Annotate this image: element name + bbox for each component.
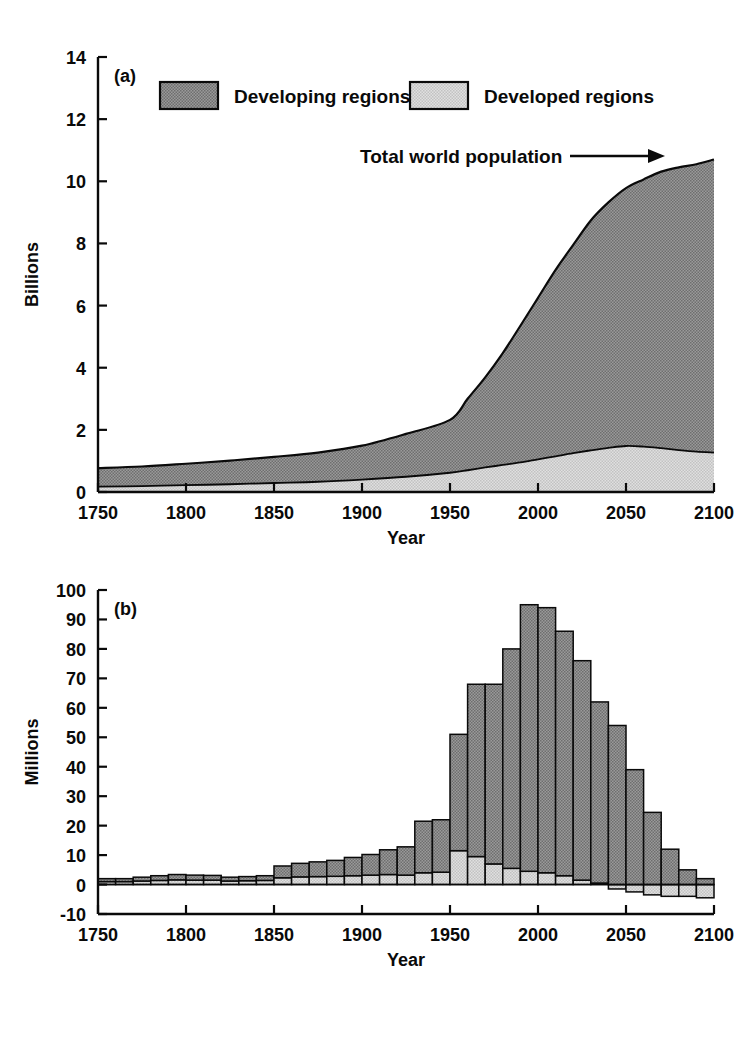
panel-b-label: 2000 <box>518 925 558 945</box>
panel-b-bar <box>380 875 398 885</box>
panel-a-label: Developing regions <box>234 86 410 107</box>
panel-b-bar <box>538 873 556 885</box>
panel-b-bar <box>520 871 538 884</box>
panel-b-label: 2100 <box>694 925 734 945</box>
panel-b-bar <box>485 684 503 864</box>
panel-b-label: 1750 <box>78 925 118 945</box>
panel-b-bar <box>608 725 626 884</box>
panel-b-bar <box>186 875 204 880</box>
panel-a-label: 2100 <box>694 503 734 523</box>
panel-b-bar <box>397 875 415 884</box>
panel-b-label: -10 <box>60 905 86 925</box>
panel-a-label: 8 <box>76 234 86 254</box>
panel-b-bar <box>292 877 310 885</box>
panel-b-bar <box>327 860 345 876</box>
panel-b-bar <box>696 885 714 898</box>
panel-b-label: 1800 <box>166 925 206 945</box>
panel-b-label: 1950 <box>430 925 470 945</box>
panel-b-bar <box>415 821 433 873</box>
panel-a-canvas: 0246810121417501800185019001950200020502… <box>0 0 754 545</box>
panel-b-label: 20 <box>66 817 86 837</box>
panel-b-bar <box>362 875 380 884</box>
figure-root: 0246810121417501800185019001950200020502… <box>0 0 754 1039</box>
panel-b-canvas: -100102030405060708090100175018001850190… <box>0 545 754 1039</box>
panel-b-bar <box>661 849 679 884</box>
panel-b-bar <box>239 877 257 881</box>
panel-b-bar <box>274 878 292 885</box>
panel-a-label: 4 <box>76 359 86 379</box>
panel-b-label: 100 <box>56 581 86 601</box>
panel-a-area-series <box>98 160 714 487</box>
panel-a-label: 1750 <box>78 503 118 523</box>
panel-b-bar <box>344 876 362 885</box>
panel-b-label: 60 <box>66 699 86 719</box>
panel-b-bar <box>397 847 415 875</box>
panel-a-label: Developed regions <box>484 86 654 107</box>
panel-a-label: (a) <box>114 66 136 86</box>
panel-b-bar <box>468 857 486 885</box>
panel-b-label: (b) <box>114 599 137 619</box>
panel-b-bar <box>432 872 450 884</box>
panel-b-label: 1900 <box>342 925 382 945</box>
panel-b-label: 0 <box>76 876 86 896</box>
panel-b-bar <box>644 812 662 884</box>
panel-b-label: 70 <box>66 669 86 689</box>
panel-b-bar <box>274 866 292 878</box>
panel-b-label: 80 <box>66 640 86 660</box>
panel-b-bar <box>221 877 239 881</box>
panel-b-label: 30 <box>66 787 86 807</box>
panel-b-bar <box>309 862 327 877</box>
panel-b-bar <box>503 649 521 868</box>
panel-a-label: Total world population <box>360 146 562 167</box>
panel-a-label: 1800 <box>166 503 206 523</box>
panel-b-bar <box>644 885 662 895</box>
panel-a-label: 2050 <box>606 503 646 523</box>
panel-a-label: 2000 <box>518 503 558 523</box>
panel-b-bar <box>679 870 697 885</box>
panel-b-label: 90 <box>66 610 86 630</box>
chart-panel-a: 0246810121417501800185019001950200020502… <box>0 0 754 545</box>
panel-b-label: 40 <box>66 758 86 778</box>
panel-b-bar <box>520 605 538 872</box>
panel-a-label: Year <box>387 528 425 545</box>
panel-a-label: 14 <box>66 48 86 68</box>
panel-a-label: 10 <box>66 172 86 192</box>
panel-b-bar <box>556 631 574 875</box>
panel-b-bar <box>485 864 503 885</box>
panel-b-bar <box>626 770 644 885</box>
panel-a-label: 2 <box>76 421 86 441</box>
panel-b-bar <box>661 885 679 897</box>
panel-b-label: 1850 <box>254 925 294 945</box>
panel-b-bar <box>98 879 116 882</box>
panel-b-bar <box>292 863 310 877</box>
panel-b-bar <box>362 855 380 876</box>
panel-a-label: 12 <box>66 110 86 130</box>
panel-b-bar <box>573 661 591 880</box>
panel-b-bar <box>344 857 362 875</box>
panel-a-label: Billions <box>22 242 42 307</box>
panel-a-bar <box>410 82 468 109</box>
panel-b-bar <box>327 876 345 884</box>
panel-a-label: 1850 <box>254 503 294 523</box>
panel-b-bar <box>309 877 327 885</box>
panel-b-bar <box>468 684 486 856</box>
panel-a-label: 1900 <box>342 503 382 523</box>
panel-b-label: Millions <box>22 719 42 786</box>
panel-b-bar <box>168 875 186 880</box>
panel-b-bar <box>591 702 609 883</box>
panel-b-bar <box>380 850 398 875</box>
panel-b-bar <box>256 876 274 881</box>
panel-b-bar <box>151 876 169 881</box>
panel-b-bar <box>679 885 697 897</box>
panel-a-bar <box>160 82 218 109</box>
panel-b-bar <box>626 885 644 892</box>
chart-panel-b: -100102030405060708090100175018001850190… <box>0 545 754 1039</box>
panel-b-bar <box>415 873 433 885</box>
panel-b-label: 10 <box>66 846 86 866</box>
panel-b-label: 50 <box>66 728 86 748</box>
panel-b-bar <box>133 877 151 881</box>
panel-b-bar <box>503 868 521 884</box>
panel-b-bar <box>450 851 468 885</box>
panel-b-bar <box>696 879 714 885</box>
panel-b-bar <box>538 608 556 873</box>
